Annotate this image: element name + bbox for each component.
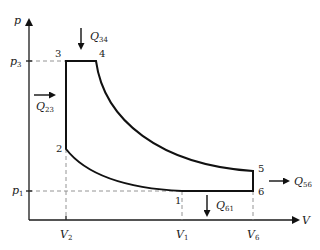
state-2-label: 2 [56,143,62,154]
state-3-label: 3 [55,48,61,59]
v6-tick-label: V6 [247,228,260,242]
q23-label: Q23 [36,100,54,114]
pv-diagram: p V 3 4 2 1 5 6 p3 p1 V2 V1 V6 Q34 Q23 Q… [0,0,320,250]
q61-label: Q61 [216,199,234,213]
v2-tick-label: V2 [60,228,72,242]
v-axis-label: V [302,214,311,227]
p3-tick-label: p3 [10,55,22,69]
cycle-path [66,61,253,191]
state-5-label: 5 [258,163,264,174]
state-4-label: 4 [99,48,105,59]
p-axis-label: p [14,14,21,27]
q34-label: Q34 [90,30,108,44]
p1-tick-label: p1 [12,184,24,198]
state-1-label: 1 [175,195,181,206]
v1-tick-label: V1 [176,228,188,242]
q56-label: Q56 [294,175,312,189]
state-6-label: 6 [258,186,264,197]
